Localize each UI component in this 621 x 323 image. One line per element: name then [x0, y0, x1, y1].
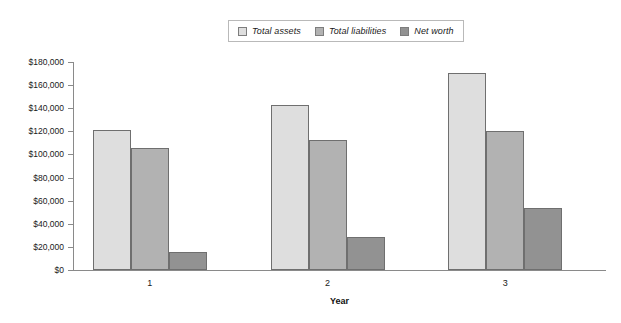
x-axis-tick-label: 1: [147, 278, 152, 288]
bar: [93, 130, 131, 270]
legend-item[interactable]: Net worth: [400, 26, 453, 36]
bar: [347, 237, 385, 270]
legend-item[interactable]: Total assets: [238, 26, 301, 36]
y-axis-tick: [68, 270, 73, 271]
y-axis-tick: [68, 131, 73, 132]
plot-area: $0$20,000$40,000$60,000$80,000$100,000$1…: [73, 62, 606, 270]
x-axis-line: [73, 270, 606, 271]
bar: [309, 140, 347, 270]
bar: [486, 131, 524, 270]
y-axis-tick: [68, 108, 73, 109]
legend-label: Net worth: [414, 26, 453, 36]
legend-swatch-icon: [315, 27, 324, 36]
x-axis-tick-label: 2: [325, 278, 330, 288]
y-axis-tick: [68, 247, 73, 248]
y-axis-line: [73, 62, 74, 271]
y-axis-tick-label: $160,000: [2, 80, 64, 90]
y-axis-tick: [68, 62, 73, 63]
x-axis-tick-label: 3: [503, 278, 508, 288]
y-axis-tick-label: $80,000: [2, 173, 64, 183]
y-axis-tick: [68, 85, 73, 86]
legend-item[interactable]: Total liabilities: [315, 26, 386, 36]
legend-label: Total liabilities: [329, 26, 386, 36]
y-axis-tick-label: $20,000: [2, 242, 64, 252]
y-axis-tick: [68, 154, 73, 155]
legend-swatch-icon: [238, 27, 247, 36]
y-axis-tick: [68, 178, 73, 179]
bar: [271, 105, 309, 270]
x-axis-title: Year: [73, 296, 606, 306]
legend-label: Total assets: [252, 26, 301, 36]
y-axis-tick-label: $180,000: [2, 57, 64, 67]
y-axis-tick: [68, 201, 73, 202]
bar: [131, 148, 169, 270]
bar: [448, 73, 486, 270]
bar: [524, 208, 562, 270]
bar: [169, 252, 207, 270]
legend-swatch-icon: [400, 27, 409, 36]
y-axis-tick-label: $0: [2, 265, 64, 275]
y-axis-tick-label: $40,000: [2, 219, 64, 229]
y-axis-tick-label: $120,000: [2, 126, 64, 136]
y-axis-tick-label: $60,000: [2, 196, 64, 206]
bar-chart: Total assetsTotal liabilitiesNet worth $…: [0, 0, 621, 323]
y-axis-tick-label: $140,000: [2, 103, 64, 113]
chart-legend: Total assetsTotal liabilitiesNet worth: [228, 20, 464, 42]
y-axis-tick: [68, 224, 73, 225]
y-axis-tick-label: $100,000: [2, 149, 64, 159]
